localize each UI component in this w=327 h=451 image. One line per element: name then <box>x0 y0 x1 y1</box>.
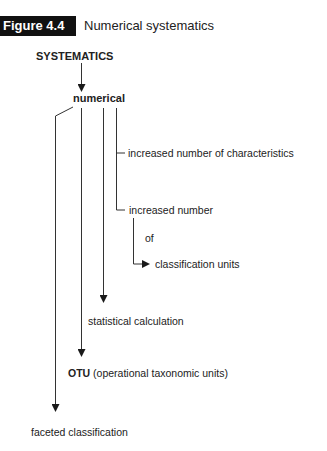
node-numerical: numerical <box>73 92 125 105</box>
node-classification-units: classification units <box>155 258 240 271</box>
otu-abbrev: OTU <box>68 367 90 379</box>
diagram-connectors <box>0 0 327 451</box>
line-increased <box>117 108 126 210</box>
node-statistical-calculation: statistical calculation <box>88 315 184 328</box>
node-otu: OTU (operational taxonomic units) <box>68 367 228 380</box>
node-faceted-classification: faceted classification <box>31 426 128 439</box>
arrow-faceted <box>56 107 74 410</box>
node-of: of <box>145 232 154 245</box>
node-systematics: SYSTEMATICS <box>36 50 113 63</box>
otu-expansion: (operational taxonomic units) <box>93 367 228 379</box>
node-increased-number: increased number <box>129 204 213 217</box>
node-characteristics: increased number of characteristics <box>128 147 294 160</box>
